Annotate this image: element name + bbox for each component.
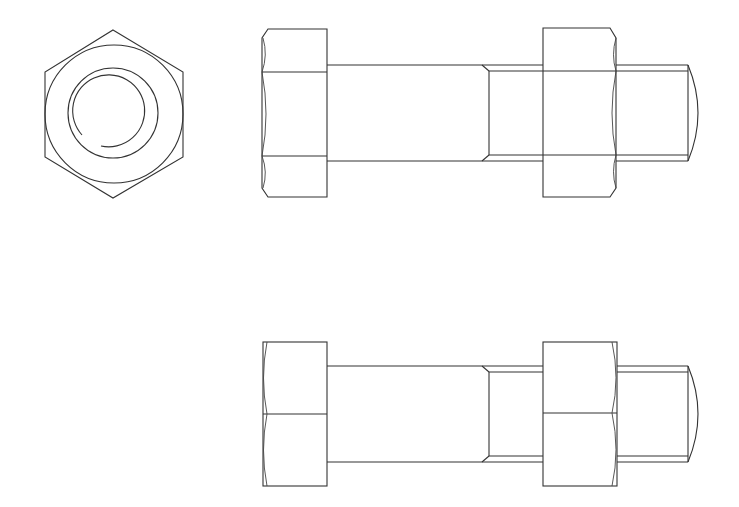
bolt-shank-side — [327, 366, 489, 462]
hexagon-outline — [45, 30, 183, 198]
side-view — [263, 342, 698, 486]
front-view — [262, 28, 698, 197]
bolt-shank — [327, 65, 489, 161]
chamfer-circle — [45, 45, 183, 183]
thread-root-arc — [73, 75, 145, 147]
bolt-head — [262, 29, 327, 197]
thread-section — [482, 65, 698, 161]
end-view — [45, 30, 183, 198]
technical-drawing — [0, 0, 739, 507]
thread-section-side — [482, 366, 698, 462]
hex-nut-side — [543, 342, 617, 486]
hex-nut — [543, 28, 616, 197]
bolt-head-side — [263, 342, 327, 486]
